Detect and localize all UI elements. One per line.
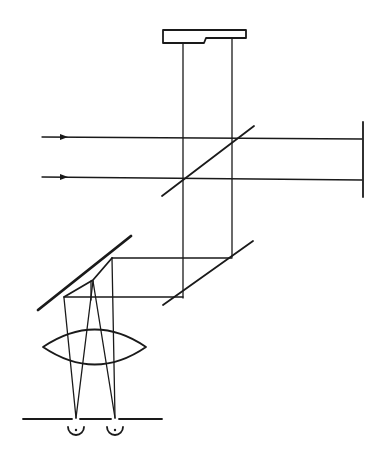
arrow-right-icon (60, 134, 68, 140)
input-beam-lower (42, 174, 362, 180)
top-reference-block (163, 30, 246, 43)
focal-point-left (68, 427, 84, 435)
input-beam-upper (42, 134, 362, 140)
return-beams (64, 258, 232, 297)
convex-lens (43, 330, 146, 365)
arrow-right-icon (60, 174, 68, 180)
focal-point-right (107, 427, 123, 435)
angled-mirror (38, 236, 131, 310)
beam-splitter (162, 126, 254, 196)
vertical-beams (183, 38, 232, 298)
optical-diagram: Interferometer-style optical layout: two… (0, 0, 386, 456)
lower-fold-mirror (163, 241, 253, 305)
